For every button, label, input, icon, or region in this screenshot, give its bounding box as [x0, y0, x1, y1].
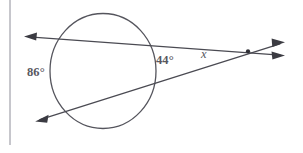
unknown-angle-label: x — [201, 48, 207, 61]
geometry-figure: 86° 44° x — [0, 0, 303, 153]
near-arc-angle-label: 44° — [156, 54, 174, 67]
arrowhead-right-lower — [272, 51, 286, 59]
arrowhead-right-upper — [272, 39, 285, 47]
upper-secant-line — [29, 37, 280, 55]
far-arc-angle-label: 86° — [27, 66, 45, 79]
external-vertex-point — [246, 49, 250, 53]
arrowhead-lower-left — [35, 115, 48, 123]
diagram-canvas — [0, 0, 303, 153]
arrowhead-upper-left — [24, 33, 37, 41]
